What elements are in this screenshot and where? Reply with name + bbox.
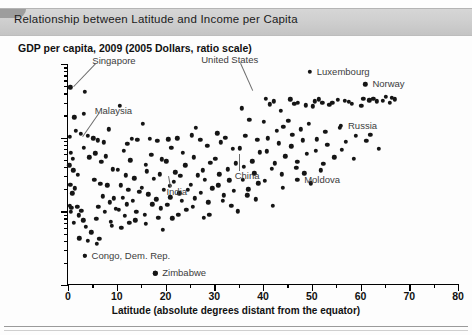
data-point xyxy=(154,197,158,201)
data-point xyxy=(295,160,299,164)
data-point xyxy=(93,151,97,155)
annotation-label: Singapore xyxy=(92,55,135,66)
data-point xyxy=(344,140,348,144)
data-point xyxy=(120,196,124,200)
data-point xyxy=(131,198,135,202)
data-point xyxy=(146,192,150,196)
y-minor-tick xyxy=(64,176,68,177)
annotation-leader-line xyxy=(239,154,240,171)
y-tick-100000 xyxy=(61,64,68,65)
data-point xyxy=(265,149,269,153)
data-point xyxy=(208,160,212,164)
data-point xyxy=(119,225,123,229)
data-point xyxy=(223,136,227,140)
x-minor-tick xyxy=(336,284,337,288)
data-point xyxy=(152,177,156,181)
data-point xyxy=(237,146,241,150)
data-point xyxy=(193,196,197,200)
data-point xyxy=(263,179,267,183)
annotation-label: United States xyxy=(201,54,258,65)
data-point xyxy=(314,137,318,141)
annotation-leader-line xyxy=(74,64,97,88)
data-point xyxy=(135,138,139,142)
annotation-leader-line xyxy=(82,113,99,137)
y-minor-tick xyxy=(64,75,68,76)
x-axis-title: Latitude (absolute degrees distant from … xyxy=(0,305,472,316)
data-point xyxy=(281,125,285,129)
data-point xyxy=(375,99,379,103)
x-minor-tick xyxy=(141,284,142,288)
data-point xyxy=(132,176,136,180)
data-point xyxy=(96,138,100,142)
data-point xyxy=(156,215,160,219)
x-tick-label-30: 30 xyxy=(208,290,220,302)
data-point xyxy=(313,149,317,153)
annotation-label: Moldova xyxy=(304,174,340,185)
data-point xyxy=(245,193,249,197)
data-point xyxy=(70,191,74,195)
data-point xyxy=(79,208,83,212)
y-axis-title: GDP per capita, 2009 (2005 Dollars, rati… xyxy=(18,42,252,54)
data-point xyxy=(270,166,274,170)
annotation-label: Congo, Dem. Rep. xyxy=(92,250,171,261)
data-point xyxy=(307,121,311,125)
data-point xyxy=(199,190,203,194)
annotation-label: Malaysia xyxy=(95,105,133,116)
scatter-plot-area: 1001,00010,000100,00001020304050607080Si… xyxy=(68,64,458,285)
data-point xyxy=(149,153,153,157)
data-point xyxy=(143,162,147,166)
figure-page: Relationship between Latitude and Income… xyxy=(0,0,472,335)
data-point xyxy=(336,98,340,102)
data-point xyxy=(301,138,305,142)
y-minor-tick xyxy=(64,154,68,155)
y-axis-line xyxy=(67,64,68,285)
x-minor-tick xyxy=(239,284,240,288)
page-rule xyxy=(4,326,468,327)
data-point xyxy=(215,131,219,135)
data-point xyxy=(87,155,91,159)
y-tick-1000 xyxy=(61,211,68,212)
data-point xyxy=(173,170,177,174)
figure-title: Relationship between Latitude and Income… xyxy=(14,13,298,25)
annotation-label: Norway xyxy=(372,78,404,89)
y-minor-tick xyxy=(64,145,68,146)
data-point xyxy=(351,156,355,160)
data-point xyxy=(207,213,211,217)
y-minor-tick xyxy=(64,223,68,224)
data-point xyxy=(266,136,270,140)
x-minor-tick xyxy=(190,284,191,288)
data-point xyxy=(353,134,357,138)
annotation-label: India xyxy=(166,186,187,197)
data-point xyxy=(340,147,344,151)
x-minor-tick xyxy=(287,284,288,288)
data-point xyxy=(206,200,210,204)
data-point xyxy=(112,196,116,200)
data-point xyxy=(99,160,103,164)
data-point xyxy=(159,157,163,161)
data-point xyxy=(289,144,293,148)
data-point xyxy=(221,198,225,202)
data-point xyxy=(304,103,308,107)
y-minor-tick xyxy=(64,71,68,72)
annotation-marker xyxy=(82,253,86,257)
data-point xyxy=(388,101,392,105)
data-point xyxy=(81,218,85,222)
data-point xyxy=(216,183,220,187)
data-point xyxy=(98,182,102,186)
x-tick-label-60: 60 xyxy=(355,290,367,302)
data-point xyxy=(176,213,180,217)
data-point xyxy=(118,183,122,187)
data-point xyxy=(69,151,73,155)
data-point xyxy=(74,128,78,132)
data-point xyxy=(110,223,114,227)
data-point xyxy=(276,141,280,145)
data-point xyxy=(247,118,251,122)
data-point xyxy=(181,151,185,155)
data-point xyxy=(359,104,363,108)
data-point xyxy=(67,163,71,167)
data-point xyxy=(377,147,381,151)
data-point xyxy=(172,180,176,184)
data-point xyxy=(235,209,239,213)
data-point xyxy=(158,206,162,210)
data-point xyxy=(233,161,237,165)
